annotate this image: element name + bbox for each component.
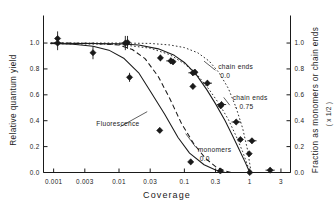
data-point-open[interactable]: [233, 119, 239, 125]
x-tick-label: 0.003: [76, 178, 94, 185]
y-tick-left-label: 0.8: [30, 65, 40, 72]
y-tick-left-label: 0.0: [30, 169, 40, 176]
annotation-label: chain ends: [218, 63, 253, 70]
annotation-label: monomers: [198, 146, 232, 153]
data-point-filled[interactable]: [54, 40, 60, 46]
annotation-leader-line: [186, 134, 196, 148]
y-tick-right-label: 0.0: [295, 169, 305, 176]
annotation-value: - 0.75: [235, 103, 254, 110]
data-point-filled[interactable]: [237, 136, 243, 142]
y-tick-left-label: 1.0: [30, 39, 40, 46]
annotation-value: 0.0: [200, 155, 210, 162]
annotation-label: Fluorescence: [96, 120, 139, 127]
annotation-label: chain ends: [233, 94, 268, 101]
x-tick-label: 0.01: [112, 178, 126, 185]
x-tick-label: 3: [279, 178, 283, 185]
data-point-filled[interactable]: [190, 83, 196, 89]
y-tick-left-label: 0.2: [30, 143, 40, 150]
figure-container: 0.0010.0030.010.030.10.3130.00.20.40.60.…: [0, 0, 336, 216]
y-tick-left-label: 0.4: [30, 117, 40, 124]
y-axis-left-title: Relative quantum yield: [9, 54, 18, 146]
annotation-leader-line: [224, 97, 230, 105]
y-axis-right-title: Fraction as monomers or chain ends: [311, 27, 320, 173]
data-point-filled[interactable]: [217, 168, 223, 174]
data-point-filled[interactable]: [126, 74, 132, 80]
data-point-filled[interactable]: [188, 159, 194, 165]
y-tick-right-label: 0.4: [295, 117, 305, 124]
y-tick-right-label: 1.0: [295, 39, 305, 46]
annotation-chain-ends-075: chain ends- 0.75: [233, 94, 268, 110]
x-tick-label: 0.001: [45, 178, 63, 185]
x-tick-label: 0.1: [179, 178, 189, 185]
data-point-filled[interactable]: [247, 169, 253, 175]
y-tick-right-label: 0.2: [295, 143, 305, 150]
y-axis-right-subtitle: ( x 1/2 ): [325, 102, 333, 126]
data-point-filled[interactable]: [157, 127, 163, 133]
y-tick-left-label: 0.6: [30, 91, 40, 98]
y-tick-right-label: 0.6: [295, 91, 305, 98]
chart-canvas: 0.0010.0030.010.030.10.3130.00.20.40.60.…: [0, 0, 336, 216]
annotation-value: 0.0: [220, 72, 230, 79]
data-point-open[interactable]: [249, 138, 255, 144]
annotation-chain-ends-00: chain ends0.0: [218, 63, 253, 79]
x-axis-title: Coverage: [143, 190, 191, 200]
y-tick-right-label: 0.8: [295, 65, 305, 72]
x-tick-label: 1: [248, 178, 252, 185]
annotation-fluorescence: Fluorescence: [96, 120, 139, 127]
x-tick-label: 0.3: [211, 178, 221, 185]
data-point-filled[interactable]: [157, 55, 163, 61]
data-point-filled[interactable]: [90, 50, 96, 56]
annotation-leader-line: [204, 61, 215, 70]
x-tick-label: 0.03: [143, 178, 157, 185]
data-point-filled[interactable]: [246, 151, 252, 157]
